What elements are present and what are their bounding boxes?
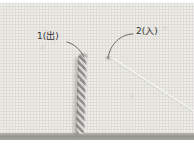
instruction-photo: 1(出) 2(入)	[0, 0, 194, 144]
point-2-label: 2(入)	[136, 27, 158, 36]
fabric-background	[0, 2, 194, 133]
point-1-label: 1(出)	[37, 32, 59, 41]
fabric-bottom-edge	[0, 133, 194, 140]
